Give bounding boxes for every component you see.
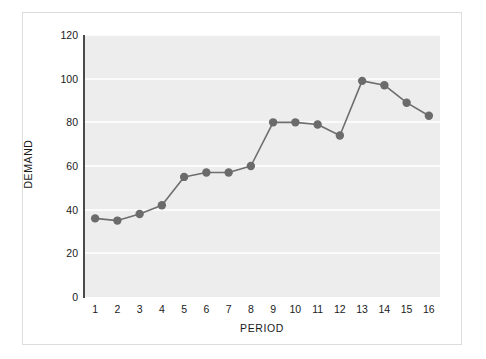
data-point-marker bbox=[313, 120, 321, 128]
y-tick-label: 60 bbox=[34, 161, 78, 171]
data-point-marker bbox=[247, 162, 255, 170]
data-point-marker bbox=[224, 168, 232, 176]
data-point-marker bbox=[269, 118, 277, 126]
plot-area bbox=[84, 35, 440, 297]
series-markers bbox=[91, 77, 433, 225]
y-tick-label: 80 bbox=[34, 117, 78, 127]
data-point-marker bbox=[135, 210, 143, 218]
data-point-marker bbox=[180, 173, 188, 181]
data-point-marker bbox=[291, 118, 299, 126]
y-tick-label: 40 bbox=[34, 205, 78, 215]
data-point-marker bbox=[158, 201, 166, 209]
y-tick-label: 20 bbox=[34, 248, 78, 258]
data-point-marker bbox=[358, 77, 366, 85]
y-tick-label: 120 bbox=[34, 30, 78, 40]
data-point-marker bbox=[202, 168, 210, 176]
y-tick-label: 100 bbox=[34, 74, 78, 84]
series-polyline bbox=[95, 81, 429, 221]
y-axis-title: DEMAND bbox=[22, 114, 34, 214]
data-point-marker bbox=[402, 98, 410, 106]
chart-figure: 020406080100120 12345678910111213141516 … bbox=[0, 0, 486, 359]
y-tick-label: 0 bbox=[34, 292, 78, 302]
y-axis-line bbox=[83, 35, 85, 298]
demand-line-series bbox=[84, 35, 440, 297]
data-point-marker bbox=[425, 112, 433, 120]
data-point-marker bbox=[91, 214, 99, 222]
x-tick-label: 16 bbox=[414, 303, 444, 315]
data-point-marker bbox=[113, 216, 121, 224]
data-point-marker bbox=[380, 81, 388, 89]
data-point-marker bbox=[336, 131, 344, 139]
x-axis-title: PERIOD bbox=[84, 322, 440, 334]
